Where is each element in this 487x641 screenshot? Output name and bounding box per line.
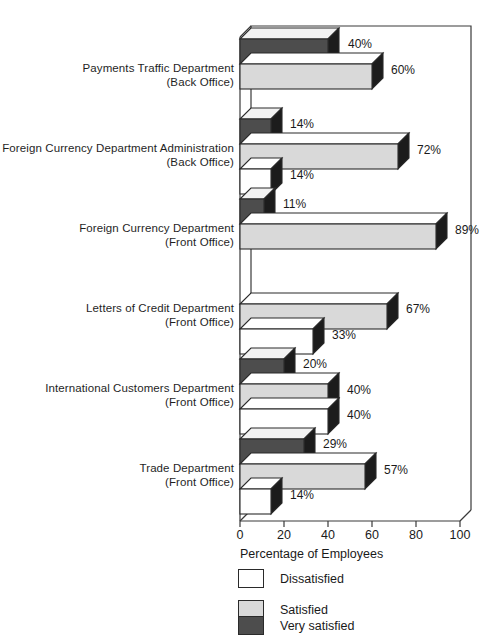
bar-g3-satisfied bbox=[240, 213, 447, 249]
x-tick-100: 100 bbox=[440, 529, 480, 542]
value-label-g6-satisfied: 57% bbox=[384, 464, 408, 476]
x-tick-40: 40 bbox=[308, 529, 348, 542]
category-label-line2: (Back Office) bbox=[0, 156, 234, 170]
x-tick-80: 80 bbox=[396, 529, 436, 542]
category-label-payments-traffic: Payments Traffic Department (Back Office… bbox=[0, 62, 234, 89]
legend-label-very-satisfied: Very satisfied bbox=[280, 619, 354, 633]
value-label-g3-very-satisfied: 11% bbox=[283, 198, 306, 210]
legend-swatch-dissatisfied bbox=[238, 569, 264, 588]
x-tick-20: 20 bbox=[264, 529, 304, 542]
value-label-g4-dissatisfied: 33% bbox=[332, 329, 356, 341]
category-label-line2: (Front Office) bbox=[0, 396, 234, 410]
value-label-g2-satisfied: 72% bbox=[417, 144, 441, 156]
category-label-line1: Foreign Currency Department Administrati… bbox=[2, 142, 234, 154]
category-label-line2: (Front Office) bbox=[0, 236, 234, 250]
category-label-line1: Payments Traffic Department bbox=[83, 62, 234, 74]
legend-label-satisfied: Satisfied bbox=[280, 603, 328, 617]
legend-swatch-very-satisfied bbox=[238, 616, 264, 635]
category-label-line1: Foreign Currency Department bbox=[79, 222, 234, 234]
category-label-international-customers: International Customers Department (Fron… bbox=[0, 382, 234, 409]
category-label-line1: Trade Department bbox=[140, 462, 235, 474]
category-label-foreign-currency-admin: Foreign Currency Department Administrati… bbox=[0, 142, 234, 169]
value-label-g2-very-satisfied: 14% bbox=[290, 118, 314, 130]
category-label-letters-of-credit: Letters of Credit Department (Front Offi… bbox=[0, 302, 234, 329]
category-label-line2: (Back Office) bbox=[0, 76, 234, 90]
category-label-foreign-currency: Foreign Currency Department (Front Offic… bbox=[0, 222, 234, 249]
bar-g1-satisfied bbox=[240, 53, 383, 89]
x-axis-ticks bbox=[240, 521, 460, 527]
value-label-g1-satisfied: 60% bbox=[391, 64, 415, 76]
legend-label-dissatisfied: Dissatisfied bbox=[280, 572, 344, 586]
satisfaction-bar-chart: Payments Traffic Department (Back Office… bbox=[0, 0, 487, 641]
value-label-g5-dissatisfied: 40% bbox=[347, 409, 371, 421]
category-label-line2: (Front Office) bbox=[0, 316, 234, 330]
x-tick-60: 60 bbox=[352, 529, 392, 542]
value-label-g2-dissatisfied: 14% bbox=[290, 169, 314, 181]
x-tick-0: 0 bbox=[220, 529, 260, 542]
x-axis-title: Percentage of Employees bbox=[240, 547, 383, 561]
bar-g6-dissatisfied bbox=[240, 478, 282, 514]
category-label-trade: Trade Department (Front Office) bbox=[0, 462, 234, 489]
value-label-g5-very-satisfied: 20% bbox=[303, 358, 327, 370]
value-label-g3-satisfied: 89% bbox=[455, 224, 479, 236]
category-label-line2: (Front Office) bbox=[0, 476, 234, 490]
category-label-line1: International Customers Department bbox=[45, 382, 234, 394]
value-label-g4-satisfied: 67% bbox=[406, 303, 430, 315]
value-label-g6-dissatisfied: 14% bbox=[290, 489, 314, 501]
value-label-g5-satisfied: 40% bbox=[347, 384, 371, 396]
value-label-g6-very-satisfied: 29% bbox=[323, 438, 347, 450]
category-label-line1: Letters of Credit Department bbox=[86, 302, 234, 314]
value-label-g1-very-satisfied: 40% bbox=[348, 38, 372, 50]
